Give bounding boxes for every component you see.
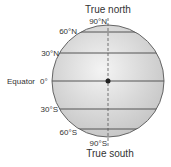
true-north-label: True north — [85, 4, 131, 15]
center-point — [106, 79, 111, 84]
label-30n: 30°N — [41, 49, 59, 58]
label-30s: 30°S — [41, 105, 58, 114]
label-90s: 90°S — [90, 139, 107, 148]
globe-latitude-diagram: True north 90°N 60°N 30°N Equator 0° 30°… — [0, 0, 171, 167]
label-90n: 90°N — [89, 17, 107, 26]
true-south-label: True south — [86, 148, 133, 159]
label-60n: 60°N — [59, 27, 77, 36]
label-60s: 60°S — [60, 128, 77, 137]
label-0: 0° — [40, 77, 48, 86]
label-equator: Equator — [7, 77, 35, 86]
